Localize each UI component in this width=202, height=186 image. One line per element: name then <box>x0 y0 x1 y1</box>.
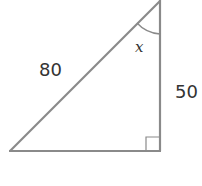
side-label: 50 <box>175 81 198 102</box>
triangle <box>9 0 161 151</box>
angle-arc <box>137 23 160 34</box>
triangle-diagram: x 80 50 <box>0 0 202 186</box>
angle-label: x <box>135 38 144 56</box>
right-angle-marker <box>146 137 160 151</box>
hypotenuse-label: 80 <box>39 59 62 80</box>
